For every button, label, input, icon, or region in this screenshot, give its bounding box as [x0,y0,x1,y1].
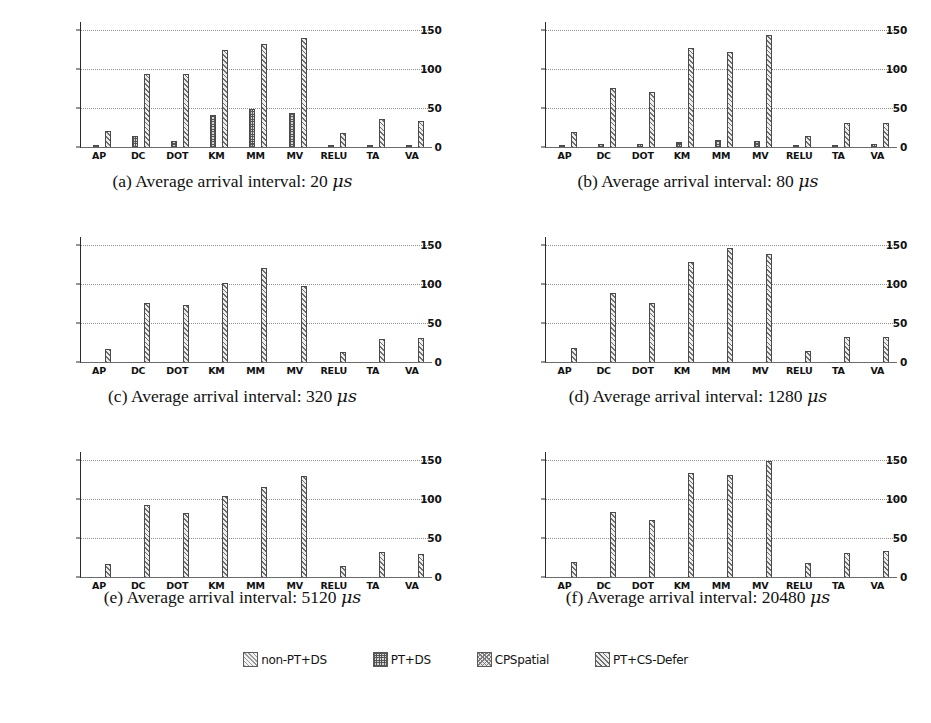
bar-MV-pt-cs-defer [766,461,772,577]
bars-layer [545,237,897,362]
plot-area-d: 050100150APDCDOTKMMMMVRELUTAVA [507,237,907,372]
bar-group-MV [275,22,314,147]
bar-DC-pt-cs-defer [610,512,616,577]
legend-swatch-icon-1 [373,652,388,667]
bar-AP-pt-cs-defer [571,132,577,147]
bar-VA-pt-cs-defer [418,121,424,147]
xtick-label-MM: MM [246,150,265,161]
xtick-label-VA: VA [871,580,885,591]
xtick-label-DC: DC [596,150,610,161]
bar-group-MV [741,452,780,577]
bar-AP-pt-ds [93,145,99,147]
xtick-label-DC: DC [131,150,145,161]
xtick-label-AP: AP [558,365,572,376]
xtick-label-DOT: DOT [166,580,188,591]
bar-MV-pt-ds [754,141,760,147]
bar-group-DOT [158,237,197,362]
bar-TA-pt-ds [832,145,838,147]
legend-label: non-PT+DS [261,653,327,667]
xtick-label-AP: AP [92,150,106,161]
bar-group-MM [701,22,740,147]
bars-layer [545,22,897,147]
xtick-label-MV: MV [752,365,768,376]
bar-group-VA [392,237,431,362]
bar-TA-pt-cs-defer [844,553,850,577]
figure-container: 050100150APDCDOTKMMMMVRELUTAVA(a) Averag… [0,0,931,723]
x-axis-spine [545,362,897,363]
bar-group-DC [584,22,623,147]
xtick-label-KM: KM [208,365,224,376]
bar-VA-pt-cs-defer [418,554,424,577]
panel-b: 050100150APDCDOTKMMMMVRELUTAVA(b) Averag… [465,0,931,215]
legend-item-pt-ds[interactable]: PT+DS [373,652,431,667]
xtick-label-MV: MV [286,580,302,591]
bar-MM-pt-cs-defer [727,52,733,147]
xtick-label-KM: KM [208,580,224,591]
caption-prefix: (e) [104,587,123,607]
legend-item-non-pt-ds[interactable]: non-PT+DS [243,652,327,667]
bar-group-AP [545,22,584,147]
caption-text: Average arrival interval: 5120 [127,587,337,607]
bar-VA-pt-cs-defer [883,123,889,147]
xtick-label-KM: KM [674,580,690,591]
bar-group-DC [584,237,623,362]
bar-DOT-pt-cs-defer [183,513,189,577]
xtick-label-MM: MM [246,365,265,376]
xtick-label-RELU: RELU [786,580,812,591]
caption-unit: μs [798,171,818,191]
plot-area-c: 050100150APDCDOTKMMMMVRELUTAVA [42,237,442,372]
bar-DOT-pt-cs-defer [649,92,655,147]
legend-item-cpspatial[interactable]: CPSpatial [477,652,549,667]
bar-group-MM [701,237,740,362]
bar-DC-pt-cs-defer [144,303,150,362]
bar-KM-pt-ds [676,142,682,147]
bar-TA-pt-cs-defer [379,552,385,577]
xtick-label-KM: KM [674,365,690,376]
bar-group-VA [858,452,897,577]
bar-RELU-pt-cs-defer [805,563,811,577]
bar-TA-pt-cs-defer [379,119,385,147]
xtick-label-TA: TA [366,580,379,591]
bar-DOT-pt-cs-defer [649,303,655,362]
bar-RELU-pt-cs-defer [340,352,346,362]
bar-RELU-pt-cs-defer [340,133,346,147]
bar-MM-pt-cs-defer [727,248,733,362]
bar-DC-pt-cs-defer [144,505,150,577]
xtick-label-AP: AP [558,150,572,161]
bar-group-RELU [314,452,353,577]
xtick-label-RELU: RELU [786,365,812,376]
plot-area-f: 050100150APDCDOTKMMMMVRELUTAVA [507,452,907,573]
bar-group-TA [353,452,392,577]
bar-group-VA [392,452,431,577]
caption-text: Average arrival interval: 20 [135,171,328,191]
bar-DOT-pt-ds [171,141,177,147]
caption-prefix: (a) [112,171,131,191]
xtick-label-RELU: RELU [321,365,347,376]
legend-item-pt-cs-defer[interactable]: PT+CS-Defer [595,652,688,667]
caption-text: Average arrival interval: 1280 [593,386,803,406]
panel-caption-c: (c) Average arrival interval: 320 μs [108,386,357,407]
bar-AP-pt-cs-defer [105,349,111,362]
xtick-label-DOT: DOT [632,580,654,591]
caption-prefix: (b) [577,171,597,191]
xtick-label-VA: VA [405,580,419,591]
xtick-label-DC: DC [596,580,610,591]
bar-MM-pt-ds [715,140,721,147]
bar-MM-pt-cs-defer [727,475,733,577]
legend-label: PT+CS-Defer [613,653,688,667]
panel-a: 050100150APDCDOTKMMMMVRELUTAVA(a) Averag… [0,0,465,215]
plot-area-b: 050100150APDCDOTKMMMMVRELUTAVA [507,22,907,157]
bar-MV-pt-cs-defer [766,35,772,148]
bar-group-DOT [623,452,662,577]
bar-group-KM [662,22,701,147]
xtick-label-MM: MM [712,150,731,161]
panel-caption-a: (a) Average arrival interval: 20 μs [112,171,352,192]
legend-swatch-icon-0 [243,652,258,667]
xtick-label-TA: TA [832,150,845,161]
bar-group-DOT [158,22,197,147]
bar-MV-pt-ds [289,113,295,147]
bar-AP-pt-cs-defer [571,562,577,577]
panel-c: 050100150APDCDOTKMMMMVRELUTAVA(c) Averag… [0,215,465,430]
bar-RELU-pt-ds [328,145,334,147]
bar-KM-pt-cs-defer [688,473,694,577]
